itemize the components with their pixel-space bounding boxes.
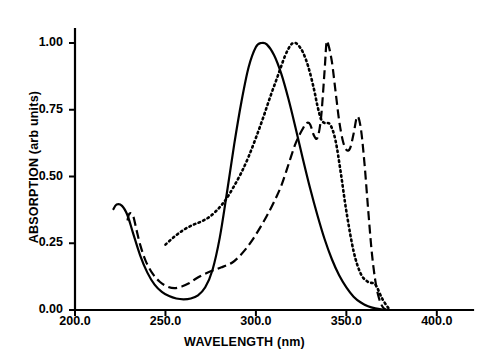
- y-tick-label: 0.50: [19, 169, 63, 183]
- series-curve-dashed: [127, 41, 386, 310]
- x-tick-label: 300.0: [226, 314, 286, 328]
- series-curve-dotted: [165, 43, 389, 310]
- x-tick-label: 400.0: [407, 314, 467, 328]
- x-tick-label: 250.0: [135, 314, 195, 328]
- x-tick-label: 200.0: [45, 314, 105, 328]
- x-axis-label: WAVELENGTH (nm): [0, 335, 489, 349]
- axis-spine: [75, 29, 473, 310]
- y-tick-label: 1.00: [19, 35, 63, 49]
- y-axis-label: ABSORPTION (arb units): [27, 37, 41, 297]
- spectrum-plot: [0, 0, 489, 363]
- series-curve-solid: [113, 43, 390, 310]
- absorption-spectrum-figure: WAVELENGTH (nm) ABSORPTION (arb units) 0…: [0, 0, 489, 363]
- y-tick-label: 0.75: [19, 102, 63, 116]
- y-tick-label: 0.25: [19, 235, 63, 249]
- x-tick-label: 350.0: [316, 314, 376, 328]
